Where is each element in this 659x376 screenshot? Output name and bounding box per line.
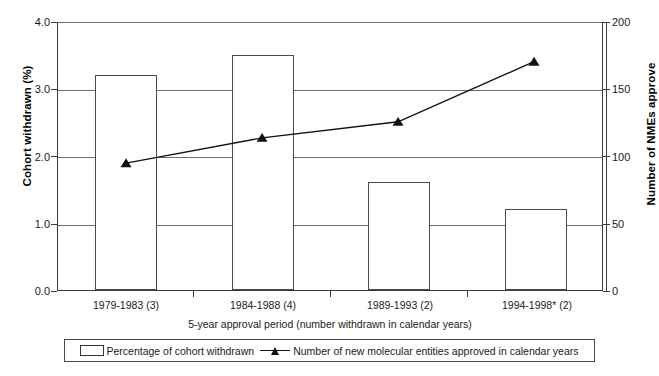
x-category-label-4: 1994-1998* (2) bbox=[467, 299, 607, 311]
y-axis-left-ticks: 4.0 3.0 2.0 1.0 0.0 bbox=[6, 0, 50, 376]
nme-line-series bbox=[58, 23, 602, 290]
plot-area bbox=[57, 22, 603, 291]
y-tickmark-right-50 bbox=[603, 224, 610, 225]
legend-label-bars: Percentage of cohort withdrawn bbox=[106, 345, 254, 357]
legend-box-swatch-icon bbox=[80, 345, 104, 356]
y-tick-right-4: 200 bbox=[612, 17, 630, 28]
y-tickmark-right-200 bbox=[603, 22, 610, 23]
y-tick-right-1: 50 bbox=[612, 219, 624, 230]
legend-entry-line[interactable]: Number of new molecular entities approve… bbox=[254, 345, 578, 357]
chart-legend: Percentage of cohort withdrawn Number of… bbox=[64, 339, 595, 362]
y-tickmark-left-0 bbox=[51, 291, 57, 292]
y-axis-title-right: Number of NMEs approve bbox=[645, 24, 657, 244]
y-tick-left-1: 1.0 bbox=[35, 219, 50, 230]
y-tickmark-right-100 bbox=[603, 156, 610, 157]
y-tick-left-0: 0.0 bbox=[35, 286, 50, 297]
x-minor-tick-3 bbox=[467, 291, 468, 297]
x-category-label-1: 1979-1983 (3) bbox=[56, 299, 196, 311]
nme-marker-2[interactable] bbox=[393, 117, 404, 126]
y-tick-left-4: 4.0 bbox=[35, 17, 50, 28]
x-minor-tick-2 bbox=[330, 291, 331, 297]
x-minor-tick-1 bbox=[193, 291, 194, 297]
x-axis-title: 5-year approval period (number withdrawn… bbox=[57, 318, 603, 330]
nme-marker-3[interactable] bbox=[529, 57, 540, 66]
legend-entry-bars[interactable]: Percentage of cohort withdrawn bbox=[80, 345, 254, 357]
x-category-label-3: 1989-1993 (2) bbox=[330, 299, 470, 311]
y-tickmark-right-150 bbox=[603, 89, 610, 90]
y-tick-right-0: 0 bbox=[612, 286, 618, 297]
y-tick-right-3: 150 bbox=[612, 84, 630, 95]
nme-marker-group bbox=[121, 57, 540, 167]
legend-label-line: Number of new molecular entities approve… bbox=[293, 345, 578, 357]
x-category-label-2: 1984-1988 (4) bbox=[193, 299, 333, 311]
y-tick-right-2: 100 bbox=[612, 152, 630, 163]
chart-figure: Cohort withdrawn (%) Number of NMEs appr… bbox=[0, 0, 659, 376]
y-tick-left-2: 2.0 bbox=[35, 152, 50, 163]
y-tick-left-3: 3.0 bbox=[35, 84, 50, 95]
y-axis-right-ticks: 200 150 100 50 0 bbox=[612, 0, 646, 376]
legend-line-triangle-icon bbox=[260, 346, 290, 356]
nme-line-path bbox=[126, 62, 534, 163]
y-tickmark-right-0 bbox=[603, 291, 610, 292]
